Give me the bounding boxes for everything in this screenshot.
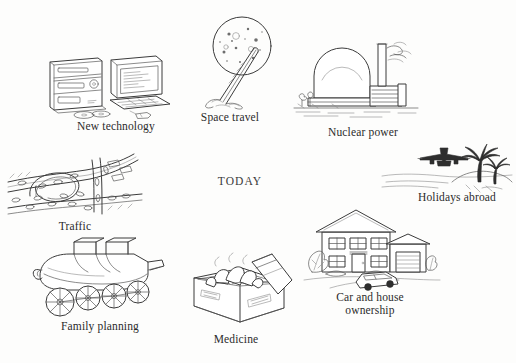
detached-house-with-garage-and-car-icon [300,200,440,292]
caption-family-planning: Family planning [36,320,164,333]
hifi-stereo-and-desktop-computer-icon [44,52,172,120]
caption-new-technology: New technology [56,120,176,133]
illustration-page: New technology [0,0,516,363]
open-box-of-tablets-icon [186,252,294,332]
vignette-family-planning [30,240,170,322]
caption-space-travel: Space travel [180,111,280,124]
vignette-nuclear-power [294,38,418,122]
vignette-traffic [8,152,142,218]
caption-medicine: Medicine [182,333,290,346]
vignette-medicine [186,252,294,332]
baby-pram-icon [30,240,170,322]
congested-motorway-junction-icon [8,152,142,218]
vignette-new-technology [44,52,172,120]
caption-nuclear-power: Nuclear power [304,126,422,139]
center-label-today: TODAY [195,175,285,187]
rocket-launching-to-moon-icon [196,14,280,110]
vignette-holidays-abroad [382,142,512,194]
caption-car-and-house-ownership: Car and house ownership [311,291,429,317]
nuclear-power-station-dome-and-chimney-icon [294,38,418,122]
vignette-car-and-house-ownership [300,200,440,292]
caption-traffic: Traffic [30,220,120,233]
airliner-over-palm-island-icon [382,142,512,194]
vignette-space-travel [196,14,280,110]
